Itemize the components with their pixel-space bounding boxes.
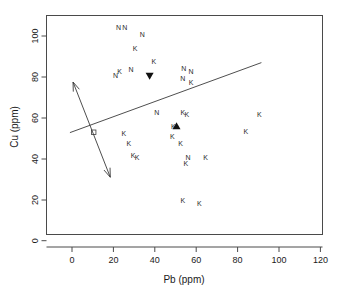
data-point-n-9: N bbox=[188, 68, 193, 75]
regression-line-layer bbox=[70, 63, 261, 133]
data-point-k-17: K bbox=[244, 128, 249, 135]
data-point-k-21: K bbox=[127, 140, 132, 147]
data-point-k-20: K bbox=[121, 130, 126, 137]
data-point-k-14: K bbox=[185, 111, 190, 118]
data-point-k-19: K bbox=[178, 140, 183, 147]
data-points-layer: NNNKKNNKNNNKNKKKKKKKKKKKNKKKK bbox=[113, 24, 262, 207]
special-markers-layer bbox=[92, 73, 181, 135]
data-point-k-23: K bbox=[135, 154, 140, 161]
group-centroid-down-triangle bbox=[146, 73, 154, 80]
regression-line bbox=[70, 63, 261, 133]
x-tick-label-0: 0 bbox=[69, 255, 74, 265]
y-tick-label-20: 20 bbox=[30, 195, 40, 205]
data-point-n-2: N bbox=[140, 31, 145, 38]
plot-canvas: 100 80 60 40 20 0 Cu (ppm) 0 20 40 60 80… bbox=[0, 0, 338, 292]
y-tick-label-40: 40 bbox=[30, 154, 40, 164]
y-tick-label-100: 100 bbox=[30, 28, 40, 43]
y-tick-label-80: 80 bbox=[30, 72, 40, 82]
x-axis-title: Pb (ppm) bbox=[163, 274, 204, 285]
data-point-k-18: K bbox=[170, 133, 175, 140]
data-point-k-15: K bbox=[257, 111, 262, 118]
data-point-k-7: K bbox=[117, 68, 122, 75]
data-point-k-27: K bbox=[180, 197, 185, 204]
data-point-k-11: K bbox=[189, 79, 194, 86]
x-tick-label-40: 40 bbox=[150, 255, 160, 265]
data-point-n-0: N bbox=[116, 24, 121, 31]
data-point-n-10: N bbox=[180, 75, 185, 82]
scatter-plot-figure: 100 80 60 40 20 0 Cu (ppm) 0 20 40 60 80… bbox=[0, 0, 338, 292]
data-point-n-8: N bbox=[181, 65, 186, 72]
y-axis: 100 80 60 40 20 0 Cu (ppm) bbox=[9, 16, 47, 244]
data-point-k-25: K bbox=[203, 154, 208, 161]
x-tick-label-100: 100 bbox=[271, 255, 286, 265]
data-point-n-1: N bbox=[122, 24, 127, 31]
y-tick-label-0: 0 bbox=[30, 238, 40, 243]
x-tick-label-60: 60 bbox=[191, 255, 201, 265]
data-point-n-5: N bbox=[128, 66, 133, 73]
data-point-k-4: K bbox=[151, 58, 156, 65]
x-tick-label-20: 20 bbox=[108, 255, 118, 265]
x-tick-label-120: 120 bbox=[313, 255, 328, 265]
x-axis: 0 20 40 60 80 100 120 Pb (ppm) bbox=[47, 247, 328, 285]
y-axis-title: Cu (ppm) bbox=[9, 106, 20, 148]
data-point-n-12: N bbox=[154, 109, 159, 116]
data-point-k-3: K bbox=[133, 45, 138, 52]
data-point-k-28: K bbox=[197, 200, 202, 207]
data-point-k-26: K bbox=[184, 160, 189, 167]
x-tick-label-80: 80 bbox=[233, 255, 243, 265]
y-tick-label-60: 60 bbox=[30, 113, 40, 123]
